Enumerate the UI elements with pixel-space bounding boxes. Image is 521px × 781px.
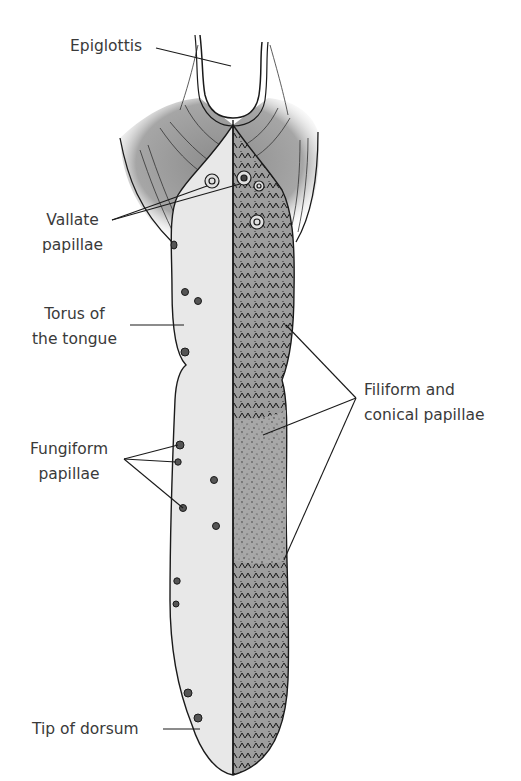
- label-torus: Torus of the tongue: [32, 302, 117, 352]
- label-tip-text: Tip of dorsum: [32, 717, 139, 742]
- label-filiform-papillae: Filiform and conical papillae: [364, 378, 485, 428]
- label-epiglottis-text: Epiglottis: [70, 34, 142, 59]
- label-vallate-papillae: Vallate papillae: [42, 208, 103, 258]
- label-torus-line2: the tongue: [32, 327, 117, 352]
- label-fungiform-line1: Fungiform: [30, 437, 108, 462]
- label-filiform-line1: Filiform and: [364, 378, 485, 403]
- label-fungiform-papillae: Fungiform papillae: [30, 437, 108, 487]
- label-fungiform-line2: papillae: [30, 462, 108, 487]
- label-torus-line1: Torus of: [32, 302, 117, 327]
- label-vallate-line2: papillae: [42, 233, 103, 258]
- label-vallate-line1: Vallate: [42, 208, 103, 233]
- label-filiform-line2: conical papillae: [364, 403, 485, 428]
- label-epiglottis: Epiglottis: [70, 34, 142, 59]
- label-tip-of-dorsum: Tip of dorsum: [32, 717, 139, 742]
- tongue-body: [170, 120, 294, 775]
